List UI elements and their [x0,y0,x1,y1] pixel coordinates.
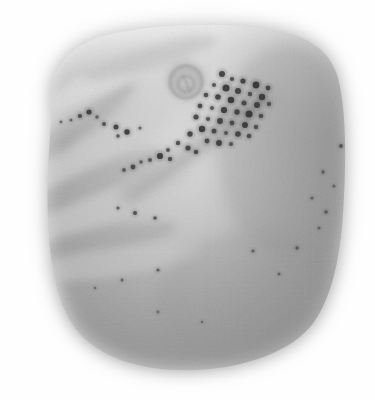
image-canvas: o [0,0,375,400]
specimen-micrograph [0,0,375,400]
